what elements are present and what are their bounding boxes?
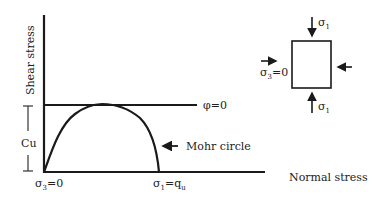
sigma-symbol: σ xyxy=(153,177,161,190)
x-axis-label-text: Normal stress xyxy=(289,171,368,184)
origin-value: =0 xyxy=(47,177,63,190)
soil-element-box xyxy=(292,41,331,88)
mohr-circle-arc xyxy=(44,104,159,172)
sigma-symbol: σ xyxy=(318,16,326,29)
y-axis-label-text: Shear stress xyxy=(24,25,37,95)
envelope-label: φ=0 xyxy=(203,100,227,111)
element-left-label: σ3=0 xyxy=(260,67,288,81)
sigma-subscript: 1 xyxy=(326,23,330,31)
mohr-circle-label: Mohr circle xyxy=(186,141,251,152)
cu-label: Cu xyxy=(21,138,37,149)
origin-label: σ3=0 xyxy=(35,178,63,192)
envelope-label-text: φ=0 xyxy=(203,99,227,112)
sigma-symbol: σ xyxy=(260,66,268,79)
x-axis-label: Normal stress xyxy=(289,172,368,183)
sigma-symbol: σ xyxy=(35,177,43,190)
sigma-symbol: σ xyxy=(318,100,326,113)
sigma-subscript: 1 xyxy=(326,107,330,115)
mohr-circle-label-text: Mohr circle xyxy=(186,140,251,153)
sigma3-value: =0 xyxy=(272,66,288,79)
y-axis-label: Shear stress xyxy=(25,25,36,95)
element-bottom-label: σ1 xyxy=(318,101,330,115)
cu-label-text: Cu xyxy=(21,137,37,150)
qu-equation: =q xyxy=(165,177,181,190)
sigma1-label: σ1=qu xyxy=(153,178,186,192)
element-top-label: σ1 xyxy=(318,17,330,31)
qu-subscript: u xyxy=(181,184,186,192)
